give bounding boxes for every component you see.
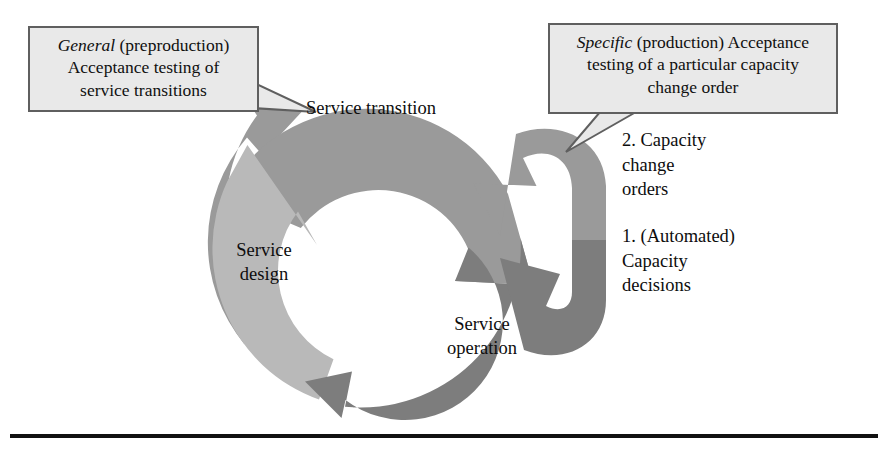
- bottom-rule-divider: [10, 434, 878, 438]
- callout-specific-emphasis: Specific: [577, 32, 632, 52]
- callout-specific-production: Specific (production) Acceptance testing…: [548, 23, 838, 114]
- label-service-transition: Service transition: [306, 96, 516, 120]
- callout-specific-line2: testing of a particular capacity: [587, 54, 799, 74]
- callout-general-line1: General (preproduction): [58, 35, 230, 55]
- callout-specific-line1-rest: (production) Acceptance: [632, 32, 809, 52]
- callout-general-line1-rest: (preproduction): [115, 35, 229, 55]
- callout-general-preproduction: General (preproduction) Acceptance testi…: [28, 26, 259, 112]
- callout-general-line2: Acceptance testing of: [68, 57, 220, 77]
- note-capacity-change-orders: 2. Capacity change orders: [622, 128, 802, 202]
- callout-specific-line3: change order: [648, 77, 739, 97]
- label-service-design: Service design: [216, 238, 312, 286]
- label-service-operation: Service operation: [420, 312, 544, 360]
- callout-general-emphasis: General: [58, 35, 115, 55]
- figure-root: General (preproduction) Acceptance testi…: [0, 0, 888, 453]
- callout-general-line3: service transitions: [80, 80, 207, 100]
- callout-specific-line1: Specific (production) Acceptance: [577, 32, 809, 52]
- note-automated-capacity-decisions: 1. (Automated) Capacity decisions: [622, 224, 812, 298]
